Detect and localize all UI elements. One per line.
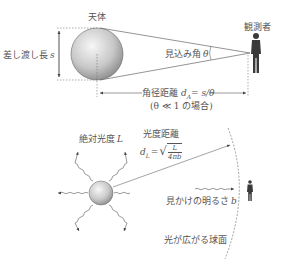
apparent-brightness-text: 見かけの明るさ — [166, 196, 229, 206]
observer-small-figure-icon — [247, 180, 253, 201]
top-angular-diameter-diagram — [57, 28, 261, 97]
incoming-light-ray — [195, 188, 234, 190]
angular-distance-text: 角径距離 — [142, 88, 178, 98]
sqrt-icon: √ — [159, 144, 167, 158]
angle-arc — [210, 46, 212, 60]
apparent-brightness-symbol: b — [231, 196, 237, 206]
luminous-source-sphere — [89, 181, 113, 205]
spreading-sphere-label: 光が広がる球面 — [164, 235, 227, 245]
fraction-denominator: 4πb — [168, 153, 182, 161]
proper-length-label: 差し渡し長s — [3, 50, 55, 60]
small-angle-condition: (θ ≪ 1 の場合) — [150, 101, 213, 111]
angular-distance-label: 角径距離 dA= s/θ — [142, 88, 214, 102]
angular-distance-rhs: = s/θ — [191, 88, 214, 98]
celestial-body-label: 天体 — [88, 12, 106, 22]
apparent-angle-label: 見込み角θ — [165, 49, 208, 59]
apparent-angle-symbol: θ — [203, 49, 208, 59]
absolute-luminosity-text: 絶対光度 — [79, 134, 115, 144]
proper-length-symbol: s — [50, 50, 55, 60]
equals-sign: = — [151, 147, 159, 157]
absolute-luminosity-symbol: L — [117, 134, 123, 144]
absolute-luminosity-label: 絶対光度L — [79, 134, 123, 144]
luminosity-distance-formula: dL=√L4πb — [140, 143, 182, 161]
observer-figure-icon — [251, 33, 261, 73]
proper-length-text: 差し渡し長 — [3, 50, 48, 60]
distance-diagram: 天体 観測者 差し渡し長s 見込み角θ 角径距離 dA= s/θ (θ ≪ 1 … — [0, 0, 286, 259]
apparent-brightness-label: 見かけの明るさb — [166, 196, 237, 206]
spreading-sphere-arc — [225, 128, 239, 259]
luminosity-distance-subscript: L — [146, 152, 150, 159]
observer-label: 観測者 — [244, 22, 271, 32]
luminosity-distance-label: 光度距離 — [143, 129, 179, 139]
fraction-numerator: L — [168, 144, 182, 153]
apparent-angle-text: 見込み角 — [165, 49, 201, 59]
